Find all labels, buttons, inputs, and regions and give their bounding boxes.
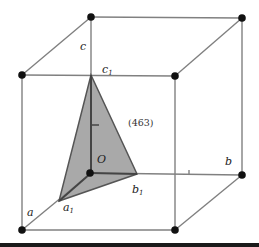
vertex bbox=[171, 72, 179, 80]
bottom-bar bbox=[0, 243, 259, 247]
vertex bbox=[87, 13, 95, 21]
edge-top-back bbox=[91, 17, 242, 18]
vertex bbox=[238, 14, 246, 22]
plane-b-segment bbox=[91, 173, 137, 174]
label-a1: a1 bbox=[63, 201, 74, 215]
vertex bbox=[238, 171, 246, 179]
edge-top-right bbox=[175, 18, 242, 76]
vertex bbox=[18, 71, 26, 79]
edge-top-front bbox=[22, 75, 175, 76]
plane-label: (463) bbox=[128, 117, 154, 128]
label-b1: b1 bbox=[132, 183, 144, 197]
origin-vertex bbox=[86, 169, 94, 177]
edge-bottom-right bbox=[175, 175, 242, 230]
label-c1: c1 bbox=[102, 63, 113, 77]
unit-cell-diagram: c b a c1 b1 a1 O (463) bbox=[0, 0, 259, 247]
label-origin: O bbox=[97, 153, 106, 166]
label-a: a bbox=[27, 206, 34, 219]
label-b: b bbox=[225, 155, 232, 168]
crystal-plane bbox=[59, 75, 137, 201]
label-c: c bbox=[80, 40, 86, 53]
vertex bbox=[171, 226, 179, 234]
vertex bbox=[18, 226, 26, 234]
plane-face bbox=[59, 75, 137, 201]
